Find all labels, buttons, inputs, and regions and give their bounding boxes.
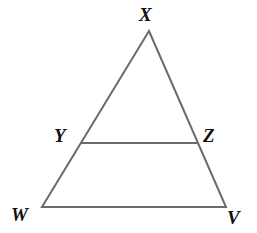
vertex-label-y: Y bbox=[54, 126, 66, 145]
triangle-xwv bbox=[42, 31, 226, 207]
vertex-label-w: W bbox=[11, 205, 28, 224]
vertex-label-v: V bbox=[227, 208, 240, 227]
vertex-label-x: X bbox=[139, 5, 152, 24]
triangle-outline bbox=[42, 31, 226, 207]
geometry-figure: X W V Y Z bbox=[0, 0, 257, 233]
triangle-diagram-svg bbox=[0, 0, 257, 233]
vertex-label-z: Z bbox=[203, 126, 215, 145]
